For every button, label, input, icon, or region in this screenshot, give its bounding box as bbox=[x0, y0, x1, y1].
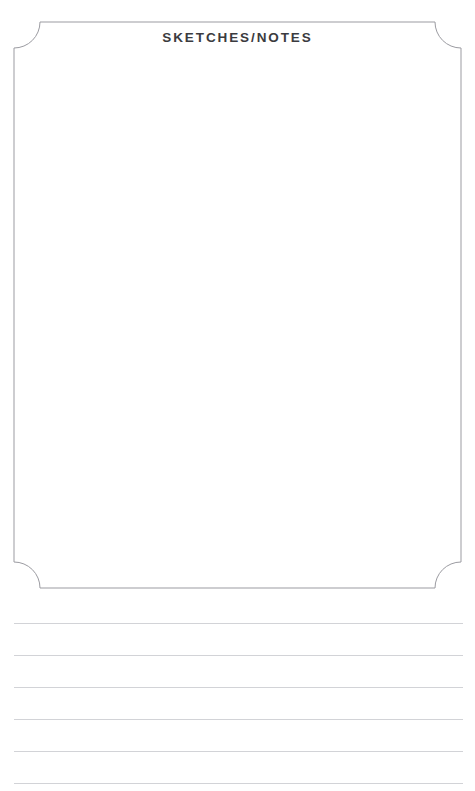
ruled-line[interactable] bbox=[14, 623, 463, 624]
ruled-line[interactable] bbox=[14, 719, 463, 720]
sketch-box: SKETCHES/NOTES bbox=[0, 0, 475, 600]
ruled-line[interactable] bbox=[14, 751, 463, 752]
page-title: SKETCHES/NOTES bbox=[0, 30, 475, 46]
ruled-lines-section bbox=[0, 600, 475, 791]
sketch-drawing-area[interactable] bbox=[16, 56, 459, 586]
ruled-line[interactable] bbox=[14, 655, 463, 656]
ruled-line[interactable] bbox=[14, 687, 463, 688]
page-root: SKETCHES/NOTES bbox=[0, 0, 475, 791]
ruled-line[interactable] bbox=[14, 783, 463, 784]
